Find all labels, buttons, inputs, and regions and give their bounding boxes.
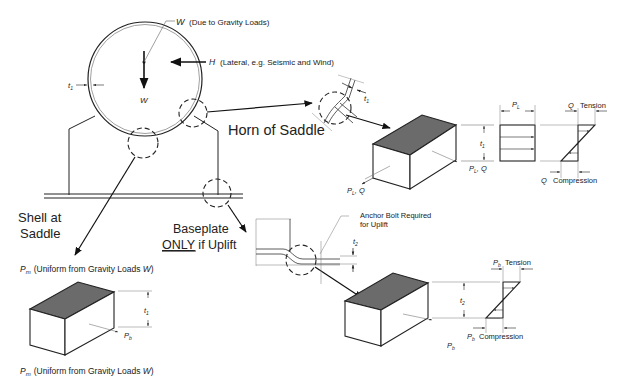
w-inner-label: W <box>140 96 149 105</box>
svg-text:PL, Q: PL, Q <box>347 186 365 196</box>
svg-text:t2: t2 <box>460 296 465 306</box>
svg-text:Pb: Pb <box>493 258 501 268</box>
svg-text:Pb: Pb <box>447 341 455 351</box>
anchor-bolt-label-line2: for Uplift <box>360 220 389 229</box>
svg-text:PL, Q: PL, Q <box>469 164 487 174</box>
pb-compression-label: Compression <box>479 332 523 341</box>
w-gravity-symbol: W <box>176 17 186 27</box>
horn-block-t1-dimension <box>461 125 494 161</box>
q-bending-stress-diagram <box>550 108 607 178</box>
svg-text:Pb: Pb <box>124 331 132 341</box>
pb-tension-label: Tension <box>505 258 531 267</box>
horn-of-saddle-title: Horn of Saddle <box>228 122 325 138</box>
baseplate-ground-line <box>44 194 243 198</box>
svg-text:ONLY if Uplift: ONLY if Uplift <box>162 238 237 252</box>
svg-text:PL: PL <box>512 100 520 110</box>
baseplate-stress-block <box>345 273 500 346</box>
baseplate-detail-circle <box>203 179 231 207</box>
shell-detail-circle <box>128 128 158 158</box>
pl-uniform-stress-diagram <box>500 105 578 161</box>
pb-bending-stress-diagram <box>473 266 533 333</box>
h-lateral-description: (Lateral, e.g. Seismic and Wind) <box>220 58 334 67</box>
svg-text:t1: t1 <box>144 306 149 316</box>
svg-text:Pm(Uniform from Gravity Loads: Pm(Uniform from Gravity Loads W) <box>20 264 154 275</box>
horn-detail-circle <box>179 99 207 127</box>
w-gravity-description: (Due to Gravity Loads) <box>189 18 270 27</box>
q-compression-label: Compression <box>553 176 597 185</box>
q-tension-symbol: Q <box>568 101 574 110</box>
saddle-outline <box>69 116 218 195</box>
shell-stress-block <box>30 282 152 355</box>
baseplate-only-label: ONLY <box>162 238 196 252</box>
vessel-shell <box>88 22 202 136</box>
q-tension-label: Tension <box>580 101 606 110</box>
svg-text:Pm(Uniform from Gravity Loads: Pm(Uniform from Gravity Loads W) <box>20 366 154 377</box>
saddle-stress-diagram: W (Due to Gravity Loads) W H (Lateral, e… <box>0 0 625 391</box>
svg-text:t1: t1 <box>364 94 369 104</box>
svg-text:t1: t1 <box>68 81 73 91</box>
horn-stress-block <box>362 115 457 189</box>
baseplate-zoom-detail-circle <box>286 245 316 275</box>
shell-at-saddle-title-line2: Saddle <box>20 226 60 241</box>
svg-text:t2: t2 <box>353 237 358 247</box>
shell-at-saddle-title-line1: Shell at <box>18 210 62 225</box>
anchor-bolt-label-line1: Anchor Bolt Required <box>360 211 431 220</box>
svg-text:t1: t1 <box>480 139 485 149</box>
q-compression-symbol: Q <box>541 176 547 185</box>
h-lateral-symbol: H <box>209 57 216 67</box>
baseplate-title-line1: Baseplate <box>173 222 229 236</box>
svg-text:Pb: Pb <box>467 332 475 342</box>
